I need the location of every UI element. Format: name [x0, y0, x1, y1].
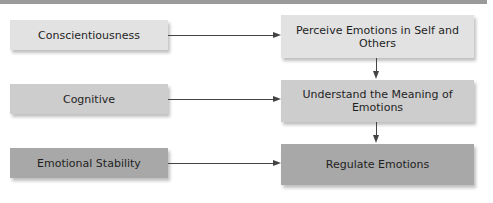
node-emotional-stability: Emotional Stability — [10, 148, 168, 178]
node-label: Conscientiousness — [38, 29, 140, 42]
node-label: Regulate Emotions — [326, 158, 429, 171]
node-regulate-emotions: Regulate Emotions — [281, 144, 474, 185]
node-label: Understand the Meaning of Emotions — [291, 88, 464, 114]
arrow-down-icon — [373, 135, 379, 143]
edge-cognitive-understand — [168, 99, 274, 100]
node-label: Cognitive — [63, 93, 115, 106]
arrow-down-icon — [373, 71, 379, 79]
header-bar — [0, 0, 487, 4]
node-conscientiousness: Conscientiousness — [10, 20, 168, 50]
node-understand-emotions: Understand the Meaning of Emotions — [281, 80, 474, 122]
node-cognitive: Cognitive — [10, 84, 168, 114]
node-label: Perceive Emotions in Self and Others — [291, 24, 464, 50]
edge-stability-regulate — [168, 163, 274, 164]
arrow-right-icon — [273, 96, 281, 102]
edge-perceive-understand — [376, 58, 377, 72]
edge-understand-regulate — [376, 122, 377, 136]
edge-conscientiousness-perceive — [168, 35, 274, 36]
node-perceive-emotions: Perceive Emotions in Self and Others — [281, 15, 474, 58]
arrow-right-icon — [273, 160, 281, 166]
node-label: Emotional Stability — [37, 157, 141, 170]
arrow-right-icon — [273, 32, 281, 38]
